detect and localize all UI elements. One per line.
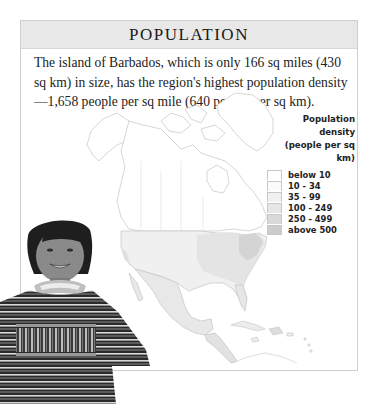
girl-photo: [0, 220, 160, 404]
legend-item: 250 - 499: [267, 213, 357, 224]
cuba-outline: [231, 321, 265, 331]
legend-items: below 10 10 - 34 35 - 99 100 - 249 250 -…: [267, 169, 357, 235]
legend-item: 35 - 99: [267, 191, 357, 202]
poncho-woven-band: [16, 328, 96, 352]
legend-swatch: [267, 170, 282, 180]
legend-item: above 500: [267, 224, 357, 235]
hispaniola-outline: [269, 327, 283, 335]
legend-item: 100 - 249: [267, 202, 357, 213]
jamaica-outline: [251, 337, 259, 342]
legend-label: above 500: [288, 225, 337, 235]
legend-swatch: [267, 225, 282, 235]
south-america-outline: [233, 353, 297, 363]
arctic-islands-outline: [161, 113, 191, 133]
legend-item: 10 - 34: [267, 180, 357, 191]
puerto-rico-outline: [287, 333, 293, 336]
map-legend: Population density (people per sq km) be…: [265, 113, 357, 235]
legend-label: 10 - 34: [288, 181, 321, 191]
legend-swatch: [267, 181, 282, 191]
legend-swatch: [267, 214, 282, 224]
legend-swatch: [267, 203, 282, 213]
legend-label: below 10: [288, 170, 331, 180]
legend-label: 250 - 499: [288, 214, 332, 224]
legend-title-line1: Population density: [265, 113, 355, 139]
legend-label: 35 - 99: [288, 192, 321, 202]
legend-label: 100 - 249: [288, 203, 332, 213]
legend-swatch: [267, 192, 282, 202]
legend-item: below 10: [267, 169, 357, 180]
legend-title: Population density (people per sq km): [265, 113, 357, 165]
florida-outline: [235, 285, 247, 311]
central-america-outline: [205, 333, 237, 363]
legend-title-line2: (people per sq km): [265, 139, 355, 165]
